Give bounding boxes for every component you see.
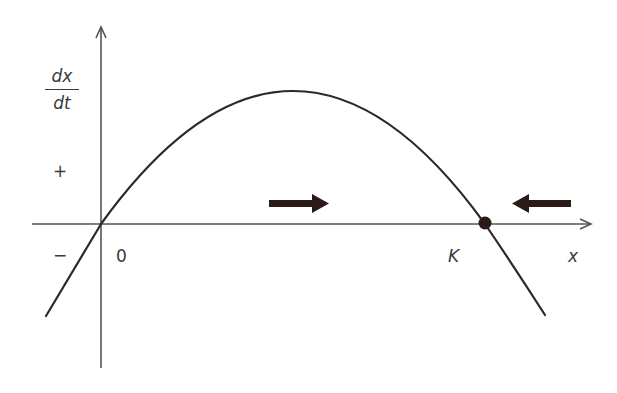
negative-sign-label: − [53, 247, 67, 264]
x-axis [32, 219, 591, 229]
phase-line-diagram: dx dt + − 0 K x [0, 0, 617, 393]
stable-equilibrium-dot [479, 217, 492, 230]
y-axis-label-numerator: dx [44, 66, 80, 89]
origin-label: 0 [116, 248, 127, 265]
carrying-capacity-label: K [448, 248, 459, 265]
x-axis-label: x [568, 248, 578, 265]
diagram-canvas [0, 0, 617, 393]
flow-arrow-right-icon [269, 194, 329, 213]
positive-sign-label: + [53, 163, 67, 180]
flow-arrow-left-icon [512, 194, 571, 213]
y-axis-label: dx dt [44, 66, 80, 113]
y-axis-label-denominator: dt [44, 90, 80, 113]
y-axis [96, 27, 106, 368]
